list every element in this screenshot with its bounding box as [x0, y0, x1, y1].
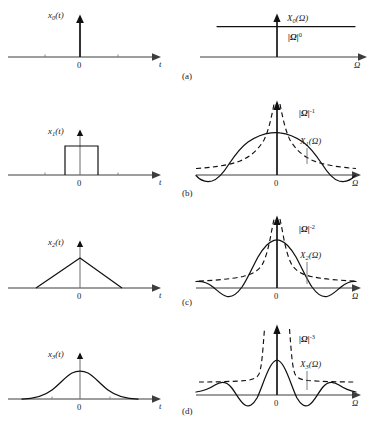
t-axis-label-b: t — [159, 177, 162, 187]
plot-b-time: x1(t) 0 t — [8, 126, 162, 188]
omega-axis-label-c: Ω — [352, 291, 358, 301]
row-b: x1(t) 0 t |Ω|-1 X1(Ω) 0 Ω (b) — [8, 101, 361, 199]
row-d: x3(t) 0 t |Ω|-3 X3(Ω) 0 Ω (d) — [8, 325, 361, 417]
t-axis-label-c: t — [159, 290, 162, 300]
panel-label-a: (a) — [182, 71, 192, 81]
envelope-label-c: |Ω|-2 — [299, 223, 315, 234]
t-axis-label-a: t — [159, 59, 162, 69]
rect-pulse-curve-b — [65, 146, 98, 175]
row-a: x0(t) 0 t X0(Ω) |Ω|0 Ω (a) — [8, 10, 367, 81]
impulse-arrowhead-a — [76, 15, 84, 24]
plot-c-time: x2(t) 0 t — [8, 237, 162, 301]
envelope-label-b: |Ω|-1 — [299, 107, 315, 118]
plot-b-freq: |Ω|-1 X1(Ω) 0 Ω — [196, 101, 361, 189]
signal-label-c: x2(t) — [47, 237, 64, 248]
envelope-label-a: |Ω|0 — [288, 31, 302, 42]
envelope-curve-left-b — [196, 104, 274, 169]
omega-axis-label-a: Ω — [354, 60, 360, 70]
plot-d-time: x3(t) 0 t — [8, 349, 162, 412]
origin-label-c-time: 0 — [77, 291, 81, 301]
y-axis-arrowhead-c — [77, 241, 83, 248]
panel-label-c: (c) — [182, 297, 192, 307]
origin-label-b-freq: 0 — [274, 178, 278, 188]
plot-a-freq: X0(Ω) |Ω|0 Ω — [200, 13, 367, 70]
omega-axis-label-b: Ω — [352, 178, 358, 188]
figure-container: x0(t) 0 t X0(Ω) |Ω|0 Ω (a) — [0, 0, 378, 427]
plot-a-time: x0(t) 0 t — [8, 10, 162, 70]
t-axis-label-d: t — [159, 401, 162, 411]
plot-c-freq: |Ω|-2 X2(Ω) 0 Ω — [196, 216, 361, 302]
envelope-curve-left-d — [199, 329, 265, 382]
spectrum-label-b: X1(Ω) — [299, 136, 321, 147]
signal-label-b: x1(t) — [47, 126, 64, 137]
origin-label-b-time: 0 — [77, 178, 81, 188]
origin-label-c-freq: 0 — [274, 291, 278, 301]
plot-d-freq: |Ω|-3 X3(Ω) 0 Ω — [196, 325, 361, 409]
signal-label-a: x0(t) — [47, 10, 64, 21]
y-axis-arrowhead-d — [77, 353, 83, 360]
origin-label-d-freq: 0 — [274, 398, 278, 408]
signal-label-d: x3(t) — [47, 349, 64, 360]
spectrum-label-d: X3(Ω) — [299, 359, 321, 370]
origin-label-d-time: 0 — [77, 402, 81, 412]
triangle-pulse-curve-c — [36, 258, 122, 288]
panel-label-b: (b) — [182, 188, 193, 198]
spectrum-label-a: X0(Ω) — [286, 13, 308, 24]
row-c: x2(t) 0 t |Ω|-2 X2(Ω) 0 Ω (c) — [8, 216, 361, 308]
envelope-label-d: |Ω|-3 — [299, 333, 315, 344]
origin-label-a-time: 0 — [77, 60, 81, 70]
y-axis-arrowhead-freq-a — [273, 14, 280, 23]
panel-label-d: (d) — [182, 406, 193, 416]
sinc-curve-b — [196, 133, 355, 182]
spectrum-label-c: X2(Ω) — [299, 250, 321, 261]
omega-axis-label-d: Ω — [352, 398, 358, 408]
y-axis-arrowhead-b — [77, 130, 83, 137]
